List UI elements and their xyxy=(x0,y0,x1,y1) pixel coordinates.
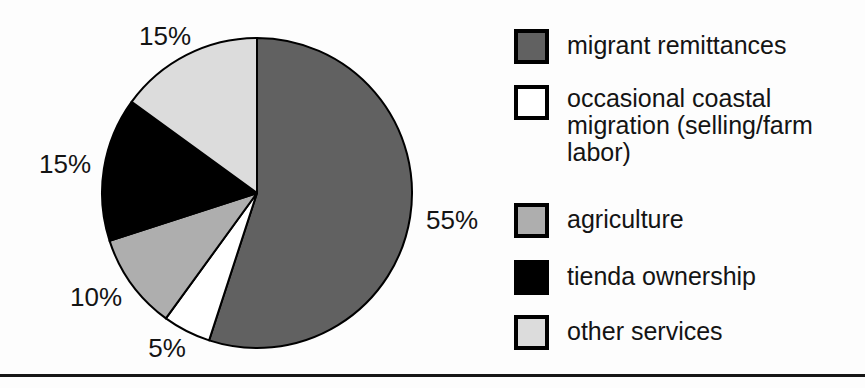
legend-label: occasional coastal migration (selling/fa… xyxy=(567,85,842,166)
legend-swatch-migrant-remittances xyxy=(514,29,549,64)
legend-label: agriculture xyxy=(567,203,842,233)
slice-value-label-migrant-remittances: 55% xyxy=(426,205,478,236)
legend-item-tienda-ownership: tienda ownership xyxy=(514,260,842,295)
bottom-rule xyxy=(0,374,865,377)
legend-label: migrant remittances xyxy=(567,29,842,59)
legend-item-agriculture: agriculture xyxy=(514,203,842,238)
pie-slices xyxy=(102,38,412,348)
legend-swatch-tienda-ownership xyxy=(514,260,549,295)
legend-swatch-occasional-coastal-migration xyxy=(514,85,549,120)
slice-value-label-occasional-coastal-migration: 5% xyxy=(148,333,186,364)
legend-item-migrant-remittances: migrant remittances xyxy=(514,29,842,64)
slice-value-label-agriculture: 10% xyxy=(70,282,122,313)
legend-label: other services xyxy=(567,315,842,345)
slice-value-label-tienda-ownership: 15% xyxy=(39,149,91,180)
legend-swatch-agriculture xyxy=(514,203,549,238)
legend-item-occasional-coastal-migration: occasional coastal migration (selling/fa… xyxy=(514,85,842,166)
slice-value-label-other-services: 15% xyxy=(139,21,191,52)
legend-label: tienda ownership xyxy=(567,260,842,290)
legend-item-other-services: other services xyxy=(514,315,842,350)
pie-chart-figure: 55% 5% 10% 15% 15% migrant remittances o… xyxy=(0,0,865,388)
legend-swatch-other-services xyxy=(514,315,549,350)
